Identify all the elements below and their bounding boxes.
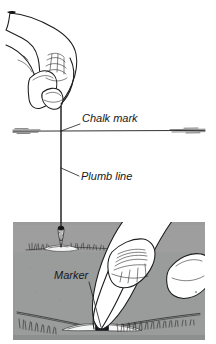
leader-chalk-mark: [61, 124, 80, 131]
label-marker: Marker: [54, 269, 90, 281]
chalk-mark-line: [13, 128, 205, 134]
label-chalk-mark: Chalk mark: [82, 112, 138, 124]
label-plumb-line: Plumb line: [81, 170, 132, 182]
figure-canvas: Chalk mark Plumb line Marker: [0, 0, 216, 344]
hand-holding-string: [6, 11, 77, 109]
illustration-figure: Chalk mark Plumb line Marker: [0, 0, 216, 344]
leader-plumb-line: [61, 168, 79, 176]
